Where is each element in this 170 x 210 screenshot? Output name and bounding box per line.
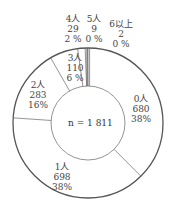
label-1: 1人 698 38% [47,162,77,192]
label-3: 3人 110 6 % [61,53,89,83]
label-6: 6以上 2 0 % [106,19,136,49]
label-0: 0人 680 38% [126,94,156,124]
cropped-caption [0,203,170,210]
total-label: n = 1 811 [68,118,113,128]
label-2: 2人 283 16% [24,80,52,110]
label-5: 5人 9 0 % [82,14,106,44]
